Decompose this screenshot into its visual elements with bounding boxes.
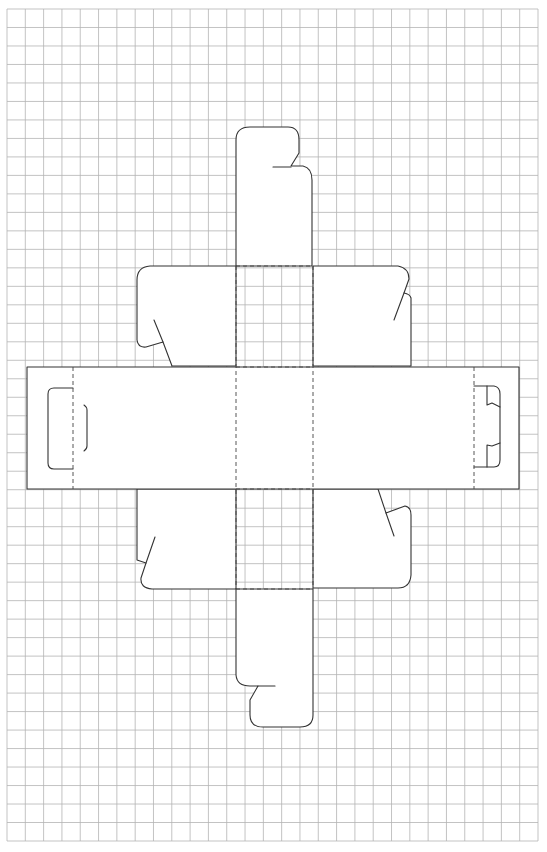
upper-right-dust-flap (313, 266, 411, 366)
lower-left-dust-flap (137, 489, 236, 589)
upper-left-dust-flap (137, 266, 236, 366)
top-tuck-flap (236, 127, 312, 266)
lower-right-dust-flap (313, 489, 411, 588)
dieline-svg (0, 0, 547, 852)
dieline-canvas (0, 0, 547, 852)
main-band (27, 367, 519, 489)
bottom-tuck-flap (236, 589, 313, 727)
